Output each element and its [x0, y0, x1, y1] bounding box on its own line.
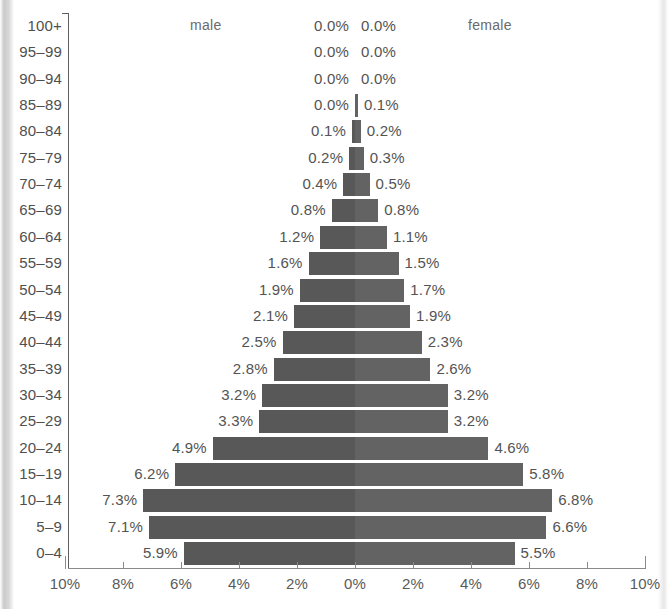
age-group-label: 55–59	[0, 254, 62, 271]
x-axis-tick-label: 4%	[209, 575, 269, 592]
bar-female[interactable]	[355, 463, 523, 486]
bar-male[interactable]	[262, 384, 355, 407]
bar-female[interactable]	[355, 279, 404, 302]
pyramid-row: 45–492.1%1.9%	[0, 304, 668, 330]
x-axis-tick-label: 6%	[151, 575, 211, 592]
x-axis-tick	[65, 556, 66, 569]
bar-female[interactable]	[355, 516, 546, 539]
x-axis-tick	[181, 562, 182, 569]
bar-female[interactable]	[355, 542, 515, 565]
x-axis-tick-label: 4%	[441, 575, 501, 592]
value-label-female: 0.2%	[367, 122, 402, 139]
bar-female[interactable]	[355, 199, 378, 222]
age-group-label: 40–44	[0, 333, 62, 350]
age-group-label: 0–4	[0, 544, 62, 561]
pyramid-row: 100+0.0%0.0%	[0, 14, 668, 40]
value-label-male: 5.9%	[134, 544, 178, 561]
bar-female[interactable]	[355, 252, 399, 275]
value-label-male: 1.9%	[250, 281, 294, 298]
age-group-label: 70–74	[0, 175, 62, 192]
bar-male[interactable]	[309, 252, 355, 275]
value-label-female: 3.2%	[454, 386, 489, 403]
value-label-male: 1.2%	[270, 228, 314, 245]
bar-male[interactable]	[175, 463, 355, 486]
value-label-female: 0.0%	[361, 43, 396, 60]
pyramid-row: 5–97.1%6.6%	[0, 515, 668, 541]
pyramid-row: 85–890.0%0.1%	[0, 93, 668, 119]
bar-male[interactable]	[283, 331, 356, 354]
x-axis-tick-label: 2%	[383, 575, 443, 592]
age-group-label: 25–29	[0, 412, 62, 429]
value-label-female: 0.3%	[370, 149, 405, 166]
bar-female[interactable]	[355, 358, 430, 381]
value-label-male: 6.2%	[125, 465, 169, 482]
age-group-label: 80–84	[0, 122, 62, 139]
pyramid-row: 15–196.2%5.8%	[0, 462, 668, 488]
pyramid-row: 35–392.8%2.6%	[0, 357, 668, 383]
value-label-female: 1.1%	[393, 228, 428, 245]
age-group-label: 45–49	[0, 307, 62, 324]
bar-female[interactable]	[355, 173, 370, 196]
value-label-female: 4.6%	[494, 439, 529, 456]
x-axis-tick-label: 8%	[557, 575, 617, 592]
bar-female[interactable]	[355, 331, 422, 354]
value-label-female: 0.0%	[361, 17, 396, 34]
population-pyramid-chart: male female 100+0.0%0.0%95–990.0%0.0%90–…	[0, 0, 668, 609]
age-group-label: 15–19	[0, 465, 62, 482]
age-group-label: 10–14	[0, 491, 62, 508]
value-label-male: 0.0%	[305, 70, 349, 87]
bar-male[interactable]	[143, 489, 355, 512]
value-label-male: 2.5%	[233, 333, 277, 350]
age-group-label: 95–99	[0, 43, 62, 60]
value-label-male: 4.9%	[163, 439, 207, 456]
bar-female[interactable]	[355, 120, 361, 143]
x-axis-tick	[645, 556, 646, 569]
value-label-male: 2.1%	[244, 307, 288, 324]
value-label-female: 1.7%	[410, 281, 445, 298]
bar-male[interactable]	[332, 199, 355, 222]
value-label-female: 5.8%	[529, 465, 564, 482]
x-axis-tick	[297, 562, 298, 569]
x-axis-tick	[587, 562, 588, 569]
value-label-male: 0.8%	[282, 201, 326, 218]
value-label-female: 0.5%	[376, 175, 411, 192]
bar-male[interactable]	[259, 410, 355, 433]
x-axis-tick-label: 6%	[499, 575, 559, 592]
bar-female[interactable]	[355, 305, 410, 328]
pyramid-row: 90–940.0%0.0%	[0, 67, 668, 93]
age-group-label: 65–69	[0, 201, 62, 218]
bar-male[interactable]	[184, 542, 355, 565]
bar-female[interactable]	[355, 410, 448, 433]
bar-male[interactable]	[213, 437, 355, 460]
value-label-male: 0.2%	[299, 149, 343, 166]
pyramid-row: 80–840.1%0.2%	[0, 119, 668, 145]
value-label-female: 1.5%	[405, 254, 440, 271]
age-group-label: 90–94	[0, 70, 62, 87]
pyramid-row: 65–690.8%0.8%	[0, 198, 668, 224]
bar-female[interactable]	[355, 489, 552, 512]
value-label-female: 3.2%	[454, 412, 489, 429]
x-axis-tick	[413, 562, 414, 569]
age-group-label: 60–64	[0, 228, 62, 245]
value-label-male: 3.3%	[209, 412, 253, 429]
bar-male[interactable]	[320, 226, 355, 249]
value-label-female: 6.8%	[558, 491, 593, 508]
pyramid-row: 55–591.6%1.5%	[0, 251, 668, 277]
bar-female[interactable]	[355, 226, 387, 249]
bar-male[interactable]	[343, 173, 355, 196]
bar-male[interactable]	[300, 279, 355, 302]
bar-female[interactable]	[355, 437, 488, 460]
x-axis-tick-label: 0%	[325, 575, 385, 592]
bar-male[interactable]	[274, 358, 355, 381]
pyramid-row: 50–541.9%1.7%	[0, 278, 668, 304]
value-label-male: 7.3%	[93, 491, 137, 508]
bar-female[interactable]	[355, 94, 358, 117]
value-label-female: 2.3%	[428, 333, 463, 350]
bar-male[interactable]	[294, 305, 355, 328]
x-axis-tick	[471, 562, 472, 569]
bar-male[interactable]	[149, 516, 355, 539]
bar-female[interactable]	[355, 147, 364, 170]
x-axis-tick	[123, 562, 124, 569]
value-label-female: 1.9%	[416, 307, 451, 324]
bar-female[interactable]	[355, 384, 448, 407]
